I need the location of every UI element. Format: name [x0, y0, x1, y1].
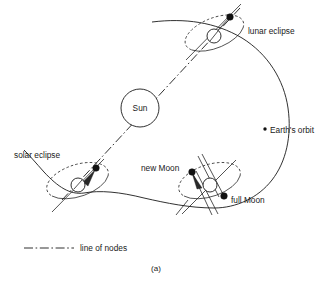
- new-moon-label: new Moon: [141, 163, 180, 173]
- moon-shadow-cone-new: [192, 173, 202, 189]
- sun-group: Sun: [121, 89, 159, 127]
- legend-label-line-of-nodes: line of nodes: [80, 243, 127, 253]
- lunar-eclipse-group: lunar eclipse: [185, 4, 295, 60]
- moon-dot-new-moon: [189, 169, 196, 176]
- diagram-canvas: Earth's orbit Sun lunar eclipse: [0, 0, 323, 285]
- new-full-moon-group: new Moon full Moon: [141, 154, 265, 215]
- figure-caption: (a): [151, 264, 161, 273]
- earths-orbit-label: Earth's orbit: [270, 125, 315, 135]
- eclipse-geometry-figure: Earth's orbit Sun lunar eclipse: [0, 0, 323, 285]
- earth-circle-new-full-moon: [203, 178, 217, 192]
- earths-orbit-group: Earth's orbit: [24, 21, 315, 208]
- moon-dot-full-moon: [221, 193, 228, 200]
- full-moon-label: full Moon: [231, 195, 265, 205]
- sun-label: Sun: [133, 103, 148, 113]
- orbit-tail-lower-left: [176, 200, 188, 215]
- earths-orbit-arc: [84, 21, 289, 208]
- earths-orbit-tick-dot: [263, 127, 266, 130]
- solar-eclipse-label: solar eclipse: [14, 150, 61, 160]
- legend-group: line of nodes: [24, 243, 127, 253]
- moon-dot-lunar-eclipse: [227, 14, 234, 21]
- solar-eclipse-group: solar eclipse: [14, 150, 108, 212]
- moon-dot-solar-eclipse: [93, 165, 100, 172]
- lunar-eclipse-label: lunar eclipse: [248, 26, 295, 36]
